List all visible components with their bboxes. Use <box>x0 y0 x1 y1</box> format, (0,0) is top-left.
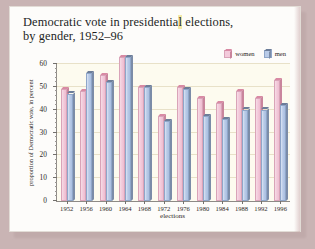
y-tick-label: 0 <box>43 196 47 205</box>
y-tick-label: 10 <box>40 173 47 182</box>
x-tick <box>164 201 165 204</box>
chart-title-line2: by gender, 1952–96 <box>23 29 123 43</box>
page-edge-shading <box>294 7 300 233</box>
bar-group-1996: 1996 <box>271 64 290 201</box>
x-tick-label: 1952 <box>60 205 73 212</box>
plot-area: 0102030405060 19521956196019641968197219… <box>56 64 290 202</box>
x-tick-label: 1968 <box>138 205 151 212</box>
x-tick-label: 1976 <box>177 205 190 212</box>
x-tick-label: 1984 <box>215 205 228 212</box>
legend-item-men: men <box>264 49 286 58</box>
bar-group-1960: 1960 <box>96 64 115 201</box>
x-tick <box>86 201 87 204</box>
bar-men-1960 <box>106 80 112 201</box>
bar-group-1984: 1984 <box>212 64 231 201</box>
x-axis-label: elections <box>56 212 289 220</box>
cube-icon <box>224 49 232 58</box>
x-tick <box>106 201 107 204</box>
chart-legend: womenmen <box>224 49 286 58</box>
bar-men-1980 <box>203 114 209 201</box>
bar-men-1972 <box>164 119 170 201</box>
bar-men-1968 <box>144 85 150 201</box>
x-tick-label: 1960 <box>99 205 112 212</box>
chart-title: Democratic vote in presidential election… <box>23 15 285 44</box>
x-tick <box>242 201 243 204</box>
legend-item-women: women <box>224 49 254 58</box>
x-tick-label: 1956 <box>80 205 93 212</box>
bar-men-1984 <box>222 117 228 201</box>
bar-group-1964: 1964 <box>115 64 134 201</box>
cube-icon <box>264 49 272 58</box>
bar-group-1976: 1976 <box>174 64 193 201</box>
x-tick <box>261 201 262 204</box>
bar-men-1988 <box>242 107 248 201</box>
chart-page: Democratic vote in presidential election… <box>0 0 315 249</box>
x-tick-label: 1996 <box>274 205 287 212</box>
chart-title-line1-b: elections, <box>182 15 233 29</box>
bar-men-1996 <box>280 103 286 201</box>
x-tick-label: 1988 <box>235 205 248 212</box>
legend-label-women: women <box>235 50 254 57</box>
page-sheet: Democratic vote in presidential election… <box>9 6 301 232</box>
y-tick-label: 50 <box>40 81 47 90</box>
y-tick-label: 40 <box>40 104 47 113</box>
y-tick-label: 60 <box>40 59 47 68</box>
y-tick-label: 30 <box>40 127 47 136</box>
bar-group-1952: 1952 <box>57 64 76 201</box>
y-axis-label-text: proportion of Democratic vote, in percen… <box>27 79 34 185</box>
x-tick-label: 1992 <box>254 205 267 212</box>
bar-group-1992: 1992 <box>251 64 270 201</box>
x-tick-label: 1964 <box>118 205 131 212</box>
x-tick <box>125 201 126 204</box>
x-tick-label: 1972 <box>157 205 170 212</box>
bar-men-1952 <box>67 91 73 201</box>
x-tick <box>222 201 223 204</box>
y-axis-label: proportion of Democratic vote, in percen… <box>24 64 37 201</box>
bar-group-1980: 1980 <box>193 64 212 201</box>
bar-men-1964 <box>125 55 131 201</box>
bar-group-1988: 1988 <box>232 64 251 201</box>
bar-men-1992 <box>261 107 267 201</box>
bar-group-1972: 1972 <box>154 64 173 201</box>
x-tick <box>144 201 145 204</box>
x-tick <box>183 201 184 204</box>
x-tick <box>203 201 204 204</box>
bar-groups: 1952195619601964196819721976198019841988… <box>57 64 290 201</box>
chart-title-line1-a: Democratic vote in presidentia <box>23 15 178 29</box>
x-tick <box>280 201 281 204</box>
x-tick-label: 1980 <box>196 205 209 212</box>
bar-men-1976 <box>183 87 189 201</box>
legend-label-men: men <box>275 50 286 57</box>
bar-group-1956: 1956 <box>76 64 95 201</box>
bar-men-1956 <box>86 71 92 201</box>
y-tick-label: 20 <box>40 150 47 159</box>
x-tick <box>67 201 68 204</box>
bar-group-1968: 1968 <box>135 64 154 201</box>
